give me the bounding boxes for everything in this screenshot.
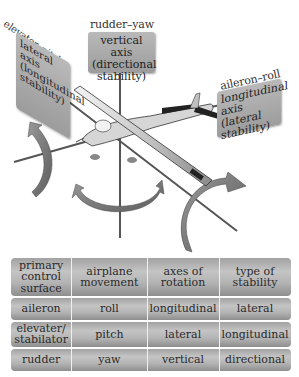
table-header-row: primary control surface airplane movemen… xyxy=(11,258,291,296)
cell-stability: lateral xyxy=(220,298,291,320)
header-airplane-movement: airplane movement xyxy=(72,258,147,296)
pitch-arrow-icon xyxy=(28,122,52,197)
cell-stability: directional xyxy=(220,349,291,371)
rudder-yaw-label: rudder–yaw xyxy=(90,18,154,31)
table-row: elevater/ stabilator pitch lateral longi… xyxy=(11,322,291,347)
vertical-axis-box: vertical axis (directional stability) xyxy=(88,32,155,73)
vertical-axis-text-1: vertical axis xyxy=(92,35,151,59)
vertical-axis-text-3: stability) xyxy=(92,71,151,83)
cell-axis: vertical xyxy=(148,349,220,371)
cell-movement: yaw xyxy=(72,349,147,371)
header-primary-control-surface: primary control surface xyxy=(11,258,72,296)
airplane-icon xyxy=(74,86,226,186)
cell-axis: lateral xyxy=(148,322,220,347)
table-row: rudder yaw vertical directional xyxy=(11,349,291,371)
cell-axis: longitudinal xyxy=(148,298,220,320)
header-type-of-stability: type of stability xyxy=(220,258,291,296)
yaw-arrow-icon xyxy=(72,180,164,212)
cell-surface: rudder xyxy=(11,349,72,371)
table-row: aileron roll longitudinal lateral xyxy=(11,298,291,320)
cell-movement: roll xyxy=(72,298,147,320)
cell-surface: elevater/ stabilator xyxy=(11,322,72,347)
cell-surface: aileron xyxy=(11,298,72,320)
cell-stability: longitudinal xyxy=(220,322,291,347)
control-surfaces-table: primary control surface airplane movemen… xyxy=(11,256,291,373)
cell-movement: pitch xyxy=(72,322,147,347)
header-axes-of-rotation: axes of rotation xyxy=(148,258,220,296)
